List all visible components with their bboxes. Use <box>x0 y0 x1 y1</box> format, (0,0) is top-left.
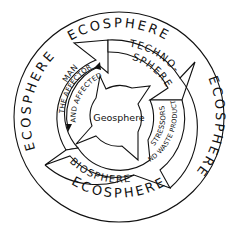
ecosphere-diagram: ECOSPHERE ECOSPHERE ECOSPHERE ECOSPHERE … <box>0 0 234 230</box>
label-geosphere: Geosphere <box>93 112 145 123</box>
label-ecosphere-left: ECOSPHERE <box>18 47 58 153</box>
